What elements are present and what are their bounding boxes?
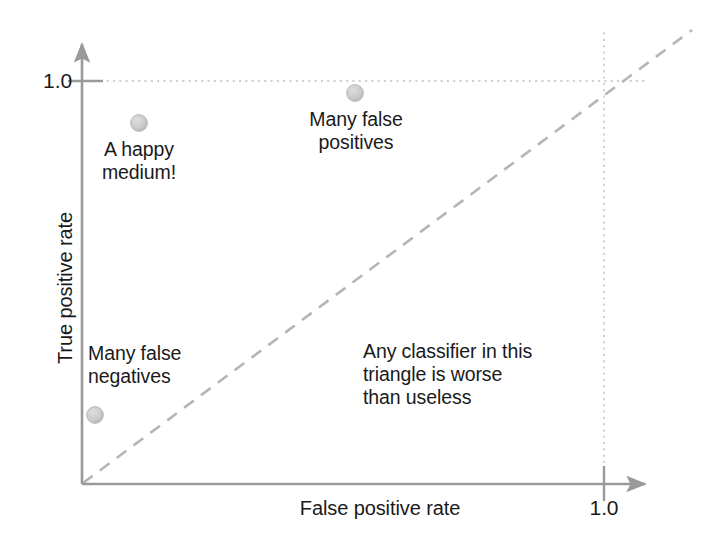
annotation-worse-than-useless: Any classifier in this triangle is worse…	[363, 340, 623, 409]
chance-diagonal-line	[83, 30, 692, 483]
data-point-many-false-positives	[347, 85, 364, 102]
y-axis-tick-label-1: 1.0	[22, 68, 72, 94]
annotation-a-happy-medium: A happy medium!	[64, 138, 214, 184]
annotation-many-false-negatives: Many false negatives	[88, 342, 258, 388]
data-point-many-false-negatives	[87, 407, 104, 424]
roc-tradeoff-diagram: 1.0 1.0 False positive rate True positiv…	[0, 0, 716, 553]
data-point-a-happy-medium	[131, 115, 148, 132]
y-axis-label: True positive rate	[52, 163, 78, 413]
annotation-many-false-positives: Many false positives	[281, 108, 431, 154]
x-axis-label: False positive rate	[255, 495, 505, 521]
plot-canvas	[0, 0, 716, 553]
x-axis-tick-label-1: 1.0	[574, 495, 634, 521]
